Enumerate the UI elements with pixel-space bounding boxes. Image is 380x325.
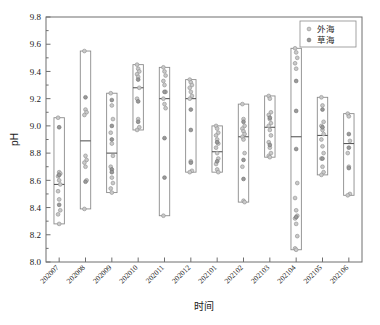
- data-point-外海-202011: [164, 74, 168, 78]
- data-point-草海-202007: [57, 203, 61, 207]
- data-point-外海-202012: [188, 170, 192, 174]
- y-tick-label: 8.6: [30, 176, 42, 186]
- data-point-外海-202010: [135, 128, 139, 132]
- data-point-外海-202104: [293, 196, 297, 200]
- data-point-外海-202103: [268, 155, 272, 159]
- data-point-外海-202011: [162, 79, 166, 83]
- data-point-外海-202104: [293, 61, 297, 65]
- data-point-外海-202011: [164, 106, 168, 110]
- data-point-草海-202009: [110, 98, 114, 102]
- data-point-外海-202104: [294, 222, 298, 226]
- data-point-草海-202102: [242, 158, 246, 162]
- data-point-外海-202009: [109, 91, 113, 95]
- data-point-外海-202105: [322, 151, 326, 155]
- data-point-草海-202008: [84, 180, 88, 184]
- data-point-外海-202101: [216, 170, 220, 174]
- y-tick-label: 8.2: [30, 230, 41, 240]
- x-tick-label: 202106: [328, 263, 350, 285]
- data-point-外海-202106: [346, 193, 350, 197]
- data-point-外海-202102: [243, 151, 247, 155]
- data-point-草海-202105: [321, 125, 325, 129]
- x-tick-label: 202102: [223, 263, 245, 285]
- data-point-外海-202010: [135, 63, 139, 67]
- plot-frame: [46, 17, 362, 262]
- data-point-外海-202009: [111, 154, 115, 158]
- x-tick-label: 202009: [91, 263, 113, 285]
- data-point-外海-202104: [294, 67, 298, 71]
- data-point-草海-202105: [321, 157, 325, 161]
- data-point-外海-202102: [241, 165, 245, 169]
- data-point-外海-202012: [188, 86, 192, 90]
- data-point-外海-202101: [215, 127, 219, 131]
- data-point-草海-202010: [136, 120, 140, 124]
- data-point-外海-202102: [243, 200, 247, 204]
- data-point-外海-202011: [163, 70, 167, 74]
- x-tick-label: 202104: [275, 263, 297, 285]
- data-point-草海-202106: [347, 146, 351, 150]
- data-point-草海-202012: [189, 161, 193, 165]
- data-point-草海-202007: [57, 125, 61, 129]
- data-point-外海-202103: [269, 134, 273, 138]
- data-point-外海-202007: [58, 183, 62, 187]
- data-point-外海-202009: [110, 104, 114, 108]
- data-point-外海-202007: [57, 197, 61, 201]
- data-point-外海-202104: [295, 56, 299, 60]
- data-point-外海-202007: [56, 189, 60, 193]
- data-point-外海-202105: [320, 173, 324, 177]
- data-point-外海-202009: [110, 142, 114, 146]
- y-tick-label: 8.0: [30, 257, 42, 267]
- data-point-外海-202007: [58, 208, 62, 212]
- data-point-外海-202008: [84, 154, 88, 158]
- data-point-外海-202103: [267, 124, 271, 128]
- data-point-外海-202105: [322, 132, 326, 136]
- data-point-外海-202011: [162, 97, 166, 101]
- data-point-草海-202105: [321, 108, 325, 112]
- data-point-外海-202011: [162, 65, 166, 69]
- data-point-外海-202104: [295, 181, 299, 185]
- data-point-外海-202104: [295, 234, 299, 238]
- x-tick-label: 202007: [38, 263, 60, 285]
- data-point-外海-202009: [109, 187, 113, 191]
- y-tick-label: 8.4: [30, 203, 42, 213]
- x-tick-label: 202103: [249, 263, 271, 285]
- data-point-草海-202102: [242, 120, 246, 124]
- box-group: [159, 67, 169, 215]
- data-point-外海-202011: [163, 102, 167, 106]
- data-point-草海-202104: [294, 109, 298, 113]
- x-tick-label: 202101: [196, 263, 218, 285]
- data-point-外海-202104: [294, 248, 298, 252]
- data-point-外海-202008: [83, 49, 87, 53]
- data-point-草海-202009: [110, 170, 114, 174]
- x-tick-label: 202011: [144, 263, 166, 285]
- data-point-外海-202007: [56, 212, 60, 216]
- data-point-外海-202101: [214, 134, 218, 138]
- data-point-草海-202101: [215, 159, 219, 163]
- data-point-草海-202101: [215, 140, 219, 144]
- data-point-草海-202103: [268, 116, 272, 120]
- x-tick-label: 202012: [170, 263, 192, 285]
- data-point-外海-202105: [321, 144, 325, 148]
- y-tick-label: 9.4: [30, 67, 42, 77]
- data-point-草海-202011: [163, 176, 167, 180]
- data-point-外海-202008: [83, 207, 87, 211]
- legend-marker-外海: [307, 27, 311, 31]
- data-point-外海-202105: [321, 165, 325, 169]
- data-point-外海-202105: [320, 138, 324, 142]
- data-point-外海-202106: [346, 151, 350, 155]
- data-point-外海-202007: [57, 222, 61, 226]
- data-point-外海-202101: [215, 151, 219, 155]
- data-point-草海-202012: [189, 128, 193, 132]
- data-point-草海-202011: [163, 136, 167, 140]
- data-point-草海-202102: [242, 177, 246, 181]
- data-point-草海-202012: [189, 108, 193, 112]
- data-point-草海-202106: [347, 132, 351, 136]
- data-point-外海-202009: [111, 181, 115, 185]
- data-point-外海-202105: [322, 120, 326, 124]
- x-tick-label: 202105: [302, 263, 324, 285]
- box-range-202011: [159, 67, 169, 215]
- data-point-外海-202105: [320, 95, 324, 99]
- data-point-外海-202007: [57, 178, 61, 182]
- x-tick-label: 202010: [117, 263, 139, 285]
- data-point-草海-202010: [136, 99, 140, 103]
- data-point-外海-202009: [109, 131, 113, 135]
